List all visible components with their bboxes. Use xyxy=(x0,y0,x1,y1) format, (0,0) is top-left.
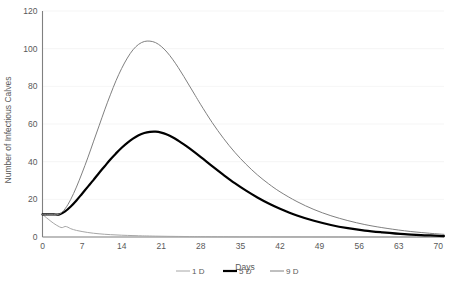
x-tick-label: 21 xyxy=(157,241,167,251)
y-tick-label: 20 xyxy=(28,194,38,204)
y-axis-tick-labels: 020406080100120 xyxy=(23,6,37,242)
x-tick-label: 28 xyxy=(196,241,206,251)
x-tick-label: 70 xyxy=(434,241,444,251)
series-line-1d xyxy=(43,214,445,237)
line-chart: 020406080100120 07142128354249566370 Day… xyxy=(0,0,450,288)
x-tick-label: 7 xyxy=(80,241,85,251)
legend-label: 9 D xyxy=(286,267,299,276)
x-tick-label: 49 xyxy=(315,241,325,251)
y-tick-label: 60 xyxy=(28,119,38,129)
y-tick-label: 100 xyxy=(23,44,37,54)
legend-label: 5 D xyxy=(239,267,252,276)
y-tick-label: 80 xyxy=(28,81,38,91)
y-tick-label: 40 xyxy=(28,157,38,167)
x-axis-tick-labels: 07142128354249566370 xyxy=(40,241,443,251)
x-tick-label: 0 xyxy=(40,241,45,251)
chart-container: 020406080100120 07142128354249566370 Day… xyxy=(0,0,450,288)
y-tick-label: 0 xyxy=(33,232,38,242)
y-axis-title: Number of Infectious Calves xyxy=(3,77,13,184)
x-tick-label: 63 xyxy=(394,241,404,251)
legend-label: 1 D xyxy=(192,267,205,276)
x-tick-label: 42 xyxy=(275,241,285,251)
x-tick-label: 14 xyxy=(117,241,127,251)
series-line-5d xyxy=(43,132,445,236)
x-tick-label: 35 xyxy=(236,241,246,251)
x-tick-label: 56 xyxy=(354,241,364,251)
data-series xyxy=(43,41,445,237)
y-tick-label: 120 xyxy=(23,6,37,16)
series-line-9d xyxy=(43,41,445,234)
gridlines xyxy=(43,11,445,237)
